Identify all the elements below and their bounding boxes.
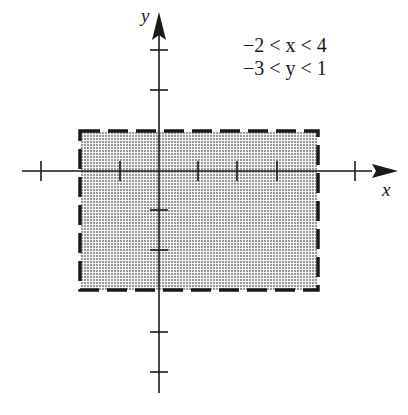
condition-x: −2 < x < 4 <box>243 34 327 56</box>
x-axis-arrow-icon <box>372 164 398 178</box>
y-axis-label: y <box>139 5 150 26</box>
coordinate-plane: y x −2 < x < 4 −3 < y < 1 <box>0 0 408 415</box>
condition-y: −3 < y < 1 <box>243 57 327 80</box>
x-axis-label: x <box>381 179 391 200</box>
shaded-region <box>80 131 318 290</box>
